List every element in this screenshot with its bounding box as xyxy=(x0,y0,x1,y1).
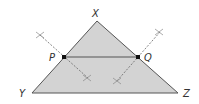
label-y: Y xyxy=(19,88,26,99)
triangle-diagram: X Y Z P Q xyxy=(0,0,199,104)
arc-mark-xz-top xyxy=(155,29,163,35)
point-q xyxy=(136,55,140,59)
label-z: Z xyxy=(182,88,191,99)
point-p xyxy=(62,55,66,59)
label-x: X xyxy=(91,8,100,19)
arc-mark-xy-top xyxy=(36,32,44,38)
label-p: P xyxy=(49,52,56,63)
label-q: Q xyxy=(144,52,152,63)
